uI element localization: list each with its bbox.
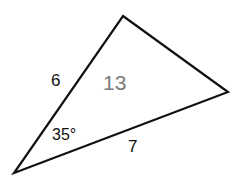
triangle-shape — [0, 0, 241, 193]
area-label: 13 — [103, 72, 126, 93]
triangle-outline — [14, 16, 228, 173]
side-length-left-label: 6 — [51, 72, 60, 89]
triangle-diagram: 6 13 35° 7 — [0, 0, 241, 193]
side-length-bottom-label: 7 — [128, 138, 137, 155]
included-angle-label: 35° — [52, 127, 76, 143]
